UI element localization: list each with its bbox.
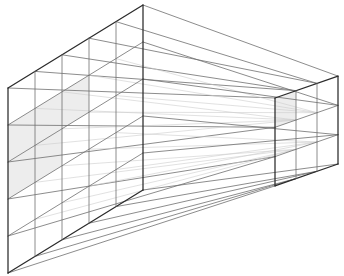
projection-ray bbox=[89, 142, 317, 149]
projection-ray bbox=[116, 59, 317, 113]
plane-edge-horizontal bbox=[8, 5, 143, 88]
projection-ray bbox=[143, 5, 338, 76]
geometry-svg bbox=[0, 0, 344, 276]
projection-ray bbox=[89, 75, 317, 113]
projection-ray bbox=[89, 171, 317, 223]
projection-ray bbox=[35, 179, 296, 257]
projection-ray bbox=[62, 92, 296, 120]
plane-edge-horizontal bbox=[275, 164, 338, 186]
projection-ray bbox=[89, 142, 317, 186]
plane-edge-horizontal bbox=[8, 190, 143, 273]
projection-ray bbox=[35, 149, 296, 182]
projection-ray bbox=[8, 88, 275, 98]
projection-ray bbox=[35, 149, 296, 219]
far-grid-plane bbox=[275, 76, 338, 186]
diagram-canvas bbox=[0, 0, 344, 276]
projection-ray bbox=[62, 55, 296, 91]
projection-ray bbox=[116, 22, 317, 84]
projection-ray bbox=[8, 186, 275, 273]
projection-ray bbox=[143, 79, 338, 105]
plane-edge-horizontal bbox=[275, 76, 338, 98]
projection-ray bbox=[143, 164, 338, 190]
projection-ray bbox=[116, 133, 317, 142]
projection-ray bbox=[116, 171, 317, 206]
